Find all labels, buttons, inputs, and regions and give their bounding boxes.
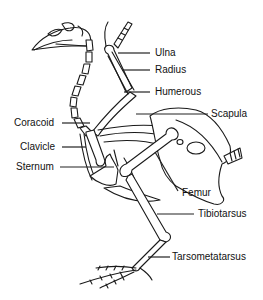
label-femur: Femur [182,187,212,198]
wing [92,22,136,136]
label-scapula: Scapula [211,108,248,119]
label-coracoid: Coracoid [14,117,54,128]
label-clavicle: Clavicle [20,141,55,152]
neck-vertebrae [70,40,93,136]
label-sternum: Sternum [16,161,54,172]
label-tarsometatarsus: Tarsometatarsus [172,251,246,262]
label-ulna: Ulna [155,47,176,58]
label-radius: Radius [155,64,186,75]
label-humerous: Humerous [155,86,201,97]
label-tibiotarsus: Tibiotarsus [198,208,247,219]
bird-skeleton-diagram: Ulna Radius Humerous Scapula Coracoid Cl… [0,0,263,300]
skull [32,23,91,50]
